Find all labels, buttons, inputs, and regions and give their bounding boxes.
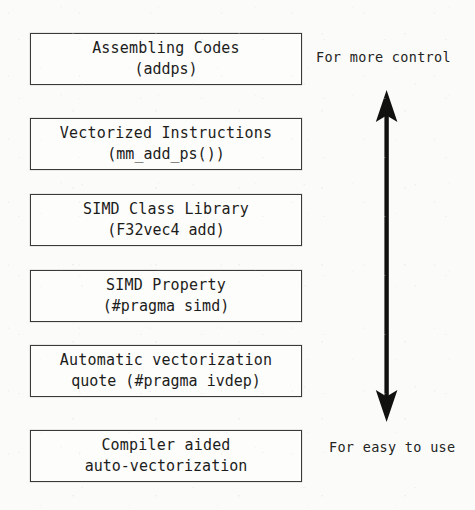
box-primary-label: Compiler aided	[101, 435, 230, 456]
axis-label-top: For more control	[316, 48, 451, 66]
box-secondary-label: (F32vec4 add)	[107, 220, 224, 241]
double-headed-arrow-icon	[355, 88, 419, 424]
diagram-box-vectorized-instructions: Vectorized Instructions (mm_add_ps())	[30, 118, 302, 170]
box-primary-label: Vectorized Instructions	[60, 123, 272, 144]
diagram-box-assembling-codes: Assembling Codes (addps)	[30, 33, 302, 85]
box-primary-label: SIMD Class Library	[83, 199, 249, 220]
diagram-box-simd-class-library: SIMD Class Library (F32vec4 add)	[30, 194, 302, 246]
box-secondary-label: (addps)	[134, 59, 197, 80]
diagram-box-automatic-vectorization: Automatic vectorization quote (#pragma i…	[30, 345, 302, 397]
box-secondary-label: quote (#pragma ivdep)	[71, 371, 261, 392]
axis-label-bottom: For easy to use	[329, 438, 455, 456]
box-primary-label: Assembling Codes	[92, 38, 240, 59]
diagram-box-simd-property: SIMD Property (#pragma simd)	[30, 270, 302, 322]
box-primary-label: Automatic vectorization	[60, 350, 272, 371]
box-secondary-label: (mm_add_ps())	[107, 144, 224, 165]
box-secondary-label: (#pragma simd)	[103, 296, 229, 317]
box-primary-label: SIMD Property	[106, 275, 226, 296]
diagram-box-compiler-aided: Compiler aided auto-vectorization	[30, 430, 302, 482]
vectorization-ladder-diagram: Assembling Codes (addps) Vectorized Inst…	[0, 0, 475, 510]
box-secondary-label: auto-vectorization	[85, 456, 248, 477]
